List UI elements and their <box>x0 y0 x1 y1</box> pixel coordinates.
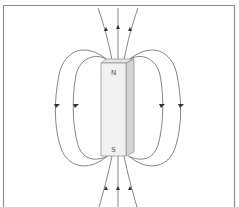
field-line-right-outer <box>130 50 181 166</box>
field-line-top-left <box>98 8 112 60</box>
arrow-down-icon <box>73 104 79 108</box>
field-line-bottom-left <box>99 156 112 207</box>
magnet-side-face <box>126 59 134 156</box>
north-pole-label: N <box>111 69 116 77</box>
bar-magnet: N S <box>101 59 134 156</box>
south-pole-label: S <box>111 146 116 154</box>
field-line-left-outer <box>55 50 106 166</box>
arrow-up-icon <box>116 25 120 29</box>
field-line-bottom-right <box>124 156 137 207</box>
field-line-top-right <box>124 8 138 60</box>
arrow-down-icon <box>159 104 165 108</box>
bar-magnet-field-diagram: N S <box>0 0 239 207</box>
arrow-up-icon <box>116 186 120 190</box>
